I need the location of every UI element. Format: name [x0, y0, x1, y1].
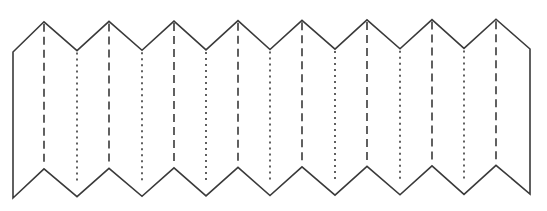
strip-outline [13, 19, 530, 198]
accordion-fold-diagram [0, 0, 547, 211]
fold-strip-figure [0, 0, 547, 211]
fold-lines-group [44, 21, 496, 180]
